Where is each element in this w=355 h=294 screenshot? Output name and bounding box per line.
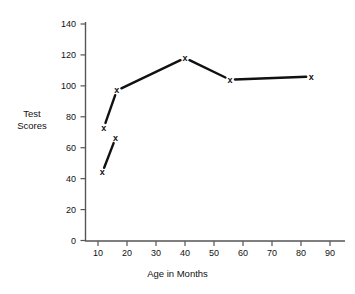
- data-point-marker: x: [101, 123, 106, 132]
- data-series-lines: [104, 60, 306, 168]
- y-axis-tick-label: 0: [44, 236, 76, 246]
- x-axis-tick-label: 80: [285, 248, 317, 258]
- y-axis-tick-label: 60: [44, 143, 76, 153]
- y-axis-tick-label: 40: [44, 174, 76, 184]
- data-point-marker: x: [100, 168, 105, 177]
- x-axis-tick-label: 50: [198, 248, 230, 258]
- x-axis-tick-label: 40: [169, 248, 201, 258]
- scatter-line-chart: 020406080100120140 102030405060708090 xx…: [0, 0, 355, 294]
- data-point-marker: x: [227, 75, 232, 84]
- x-axis-ticks: [98, 241, 330, 246]
- y-axis-tick-label: 140: [44, 19, 76, 29]
- series-segment: [190, 60, 226, 77]
- x-axis-title: Age in Months: [0, 268, 355, 279]
- x-axis-tick-label: 30: [140, 248, 172, 258]
- data-point-marker: x: [113, 134, 118, 143]
- data-point-marker: x: [114, 86, 119, 95]
- y-axis-title: Test Scores: [4, 108, 60, 132]
- series-segment: [235, 77, 306, 80]
- x-axis-tick-label: 70: [256, 248, 288, 258]
- series-segment: [104, 143, 113, 168]
- x-axis-tick-label: 10: [82, 248, 114, 258]
- y-axis-title-line-1: Test: [4, 108, 60, 120]
- y-axis-title-line-2: Scores: [4, 120, 60, 132]
- x-axis-tick-label: 60: [227, 248, 259, 258]
- series-segment: [105, 95, 115, 123]
- x-axis-tick-label: 90: [314, 248, 346, 258]
- data-point-marker: x: [309, 72, 314, 81]
- series-segment: [121, 60, 180, 88]
- x-axis-tick-label: 20: [111, 248, 143, 258]
- y-axis-tick-label: 120: [44, 50, 76, 60]
- axes-lines: [85, 22, 345, 241]
- y-axis-tick-label: 100: [44, 81, 76, 91]
- y-axis-tick-label: 20: [44, 205, 76, 215]
- data-point-marker: x: [182, 54, 187, 63]
- y-axis-ticks: [81, 24, 86, 240]
